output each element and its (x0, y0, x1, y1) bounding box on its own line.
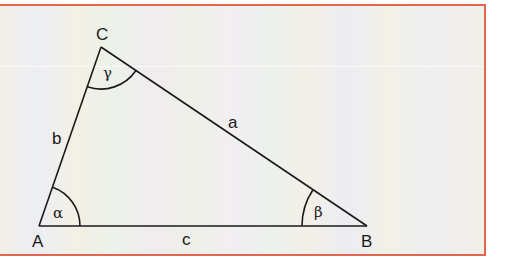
angle-label-beta: β (314, 203, 323, 221)
vertex-label-C: C (96, 25, 108, 44)
angle-label-gamma: γ (103, 64, 112, 82)
vertex-label-B: B (361, 232, 372, 251)
angle-label-alpha: α (53, 204, 63, 222)
triangle-diagram: A B C a b c α β γ (0, 0, 508, 268)
side-label-c: c (182, 230, 191, 249)
angle-beta-arc (302, 190, 313, 226)
side-a-line (101, 47, 367, 226)
side-label-b: b (52, 129, 61, 148)
side-label-a: a (228, 113, 238, 132)
vertex-label-A: A (32, 232, 44, 251)
